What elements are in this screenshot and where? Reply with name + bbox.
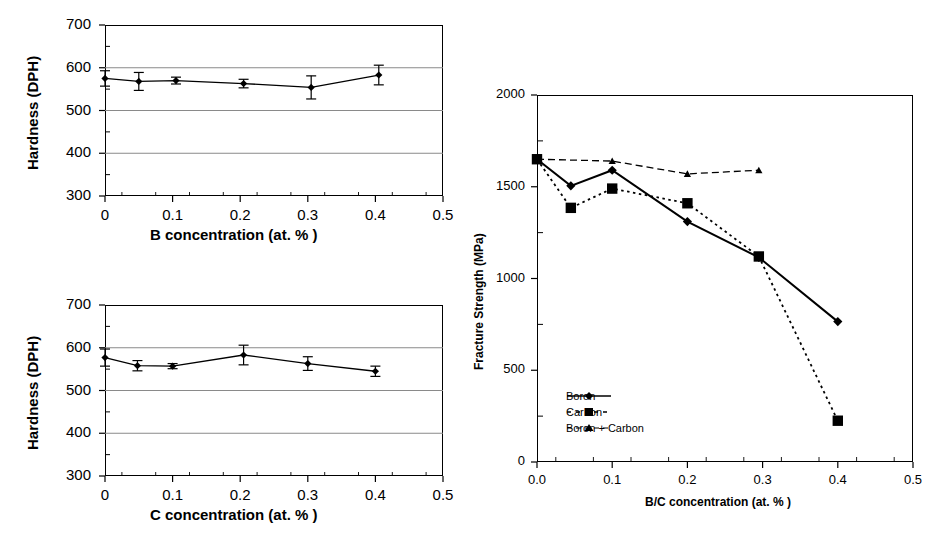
y-tick-label: 1500 — [485, 178, 525, 193]
x-tick-label: 0.3 — [283, 486, 333, 503]
chart-hardness-carbon: Hardness (DPH) C concentration (at. % ) … — [0, 280, 470, 543]
legend-item-boron-carbon: Boron + Carbon — [566, 420, 644, 436]
legend-key-boron-carbon — [566, 421, 612, 435]
x-tick-label: 0.2 — [215, 486, 265, 503]
y-tick-label: 2000 — [485, 86, 525, 101]
legend-item-boron: Boron — [566, 388, 644, 404]
x-tick-label: 0.1 — [148, 486, 198, 503]
x-tick-label: 0 — [80, 206, 130, 223]
y-tick-label: 0 — [485, 453, 525, 468]
y-tick-label: 600 — [57, 338, 91, 355]
x-tick-label: 0.4 — [350, 486, 400, 503]
series-layer-fracture-strength — [460, 0, 943, 543]
legend-fracture-strength: Boron Carbon Boron + Carbon — [566, 388, 644, 436]
chart-fracture-strength: Fracture Strength (MPa) B/C concentratio… — [460, 0, 943, 543]
y-tick-label: 500 — [57, 101, 91, 118]
x-tick-label: 0.5 — [888, 472, 938, 487]
y-tick-label: 400 — [57, 143, 91, 160]
y-tick-label: 600 — [57, 58, 91, 75]
x-tick-label: 0 — [80, 486, 130, 503]
x-tick-label: 0.2 — [662, 472, 712, 487]
x-tick-label: 0.2 — [215, 206, 265, 223]
y-tick-label: 500 — [57, 381, 91, 398]
y-tick-label: 300 — [57, 186, 91, 203]
y-axis-title-fracture-strength: Fracture Strength (MPa) — [472, 233, 486, 370]
x-tick-label: 0.3 — [283, 206, 333, 223]
x-axis-title-c-concentration: C concentration (at. % ) — [150, 506, 318, 523]
legend-key-carbon — [566, 405, 612, 419]
x-tick-label: 0.4 — [813, 472, 863, 487]
y-tick-label: 700 — [57, 15, 91, 32]
x-tick-label: 0.1 — [587, 472, 637, 487]
y-axis-title-hardness-carbon: Hardness (DPH) — [24, 336, 41, 450]
y-tick-label: 300 — [57, 466, 91, 483]
x-tick-label: 0.1 — [148, 206, 198, 223]
legend-item-carbon: Carbon — [566, 404, 644, 420]
y-tick-label: 500 — [485, 361, 525, 376]
y-tick-label: 1000 — [485, 270, 525, 285]
y-tick-label: 400 — [57, 423, 91, 440]
x-axis-title-b-concentration: B concentration (at. % ) — [150, 226, 318, 243]
y-axis-title-hardness-boron: Hardness (DPH) — [24, 56, 41, 170]
y-tick-label: 700 — [57, 295, 91, 312]
x-tick-label: 0.4 — [350, 206, 400, 223]
series-layer-hardness-carbon — [0, 280, 470, 543]
x-axis-title-bc-concentration: B/C concentration (at. % ) — [645, 495, 791, 509]
x-tick-label: 0.3 — [738, 472, 788, 487]
chart-hardness-boron: Hardness (DPH) B concentration (at. % ) … — [0, 0, 470, 265]
x-tick-label: 0.0 — [512, 472, 562, 487]
legend-key-boron — [566, 389, 612, 403]
figure-root: Hardness (DPH) B concentration (at. % ) … — [0, 0, 943, 543]
